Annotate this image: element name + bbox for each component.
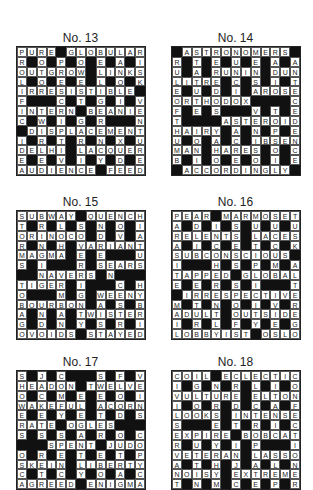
black-square <box>261 57 271 67</box>
black-square <box>125 469 135 479</box>
black-square <box>221 241 231 251</box>
black-square <box>125 77 135 87</box>
black-square <box>86 430 96 440</box>
puzzle-16: No. 16 PEARMARMOSETADISUUURELENTSLACESAI… <box>171 195 300 340</box>
letter-cell: A <box>261 450 271 460</box>
black-square <box>280 126 290 136</box>
letter-cell: U <box>182 250 192 260</box>
letter-cell: I <box>241 165 251 175</box>
puzzle-title: No. 14 <box>171 31 300 46</box>
letter-cell: D <box>221 96 231 106</box>
letter-cell: S <box>56 86 66 96</box>
letter-cell: R <box>56 67 66 77</box>
letter-cell: T <box>202 391 212 401</box>
black-square <box>202 260 212 270</box>
letter-cell: T <box>290 280 300 290</box>
letter-cell: S <box>192 47 202 57</box>
letter-cell: Y <box>211 329 221 339</box>
letter-cell: E <box>231 241 241 251</box>
letter-cell: E <box>115 126 125 136</box>
letter-cell: T <box>96 329 106 339</box>
letter-cell: D <box>135 329 145 339</box>
letter-cell: E <box>211 77 221 87</box>
letter-cell: R <box>37 86 47 96</box>
letter-cell: D <box>290 116 300 126</box>
black-square <box>37 96 47 106</box>
black-square <box>76 381 86 391</box>
letter-cell: R <box>37 479 47 489</box>
black-square <box>106 136 116 146</box>
letter-cell: B <box>192 329 202 339</box>
black-square <box>76 329 86 339</box>
letter-cell: M <box>172 300 182 310</box>
letter-cell: O <box>290 329 300 339</box>
black-square <box>280 145 290 155</box>
letter-cell: U <box>231 57 241 67</box>
letter-cell: L <box>251 270 261 280</box>
letter-cell: B <box>241 430 251 440</box>
letter-cell: N <box>251 165 261 175</box>
letter-cell: L <box>56 221 66 231</box>
black-square <box>86 401 96 411</box>
black-square <box>202 155 212 165</box>
letter-cell: R <box>202 126 212 136</box>
crossword-grid: PEARMARMOSETADISUUURELENTSLACESAICETCKSU… <box>171 210 301 340</box>
letter-cell: U <box>27 165 37 175</box>
letter-cell: E <box>96 450 106 460</box>
letter-cell: O <box>221 47 231 57</box>
letter-cell: N <box>125 290 135 300</box>
black-square <box>221 460 231 470</box>
black-square <box>182 260 192 270</box>
black-square <box>241 401 251 411</box>
letter-cell: S <box>280 410 290 420</box>
black-square <box>66 145 76 155</box>
letter-cell: S <box>96 319 106 329</box>
letter-cell: L <box>76 47 86 57</box>
black-square <box>47 309 57 319</box>
letter-cell: A <box>280 430 290 440</box>
letter-cell: T <box>17 280 27 290</box>
letter-cell: R <box>261 469 271 479</box>
letter-cell: A <box>172 241 182 251</box>
letter-cell: A <box>76 126 86 136</box>
letter-cell: R <box>211 401 221 411</box>
letter-cell: R <box>192 290 202 300</box>
letter-cell: E <box>106 381 116 391</box>
black-square <box>202 241 212 251</box>
letter-cell: C <box>202 165 212 175</box>
black-square <box>27 221 37 231</box>
letter-cell: R <box>115 460 125 470</box>
black-square <box>66 57 76 67</box>
letter-cell: T <box>251 241 261 251</box>
letter-cell: S <box>280 250 290 260</box>
black-square <box>86 391 96 401</box>
black-square <box>106 280 116 290</box>
letter-cell: O <box>261 270 271 280</box>
letter-cell: R <box>96 241 106 251</box>
letter-cell: C <box>135 469 145 479</box>
letter-cell: O <box>231 309 241 319</box>
letter-cell: B <box>56 300 66 310</box>
letter-cell: T <box>115 309 125 319</box>
black-square <box>241 440 251 450</box>
letter-cell: A <box>135 231 145 241</box>
letter-cell: O <box>290 450 300 460</box>
black-square <box>241 241 251 251</box>
black-square <box>202 401 212 411</box>
letter-cell: L <box>76 401 86 411</box>
black-square <box>47 290 57 300</box>
letter-cell: L <box>96 77 106 87</box>
letter-cell: H <box>202 96 212 106</box>
letter-cell: I <box>270 290 280 300</box>
black-square <box>280 280 290 290</box>
black-square <box>280 241 290 251</box>
black-square <box>86 231 96 241</box>
puzzle-title: No. 18 <box>171 355 300 370</box>
letter-cell: X <box>241 96 251 106</box>
black-square <box>202 106 212 116</box>
letter-cell: O <box>211 165 221 175</box>
letter-cell: O <box>261 329 271 339</box>
black-square <box>125 319 135 329</box>
letter-cell: E <box>290 126 300 136</box>
letter-cell: Q <box>86 211 96 221</box>
